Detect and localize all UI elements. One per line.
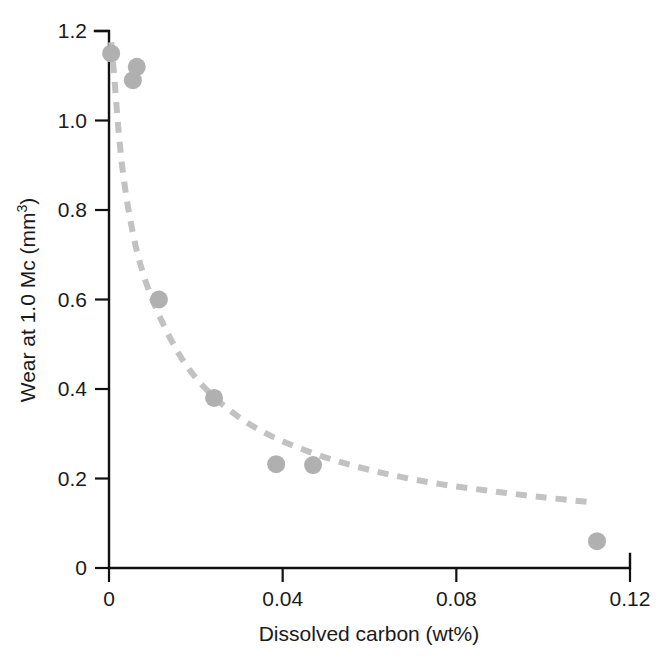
x-axis-ticks	[109, 568, 630, 582]
x-tick-label: 0.08	[436, 587, 477, 610]
data-point	[267, 455, 285, 473]
trend-curve	[111, 42, 595, 502]
y-axis-title-superscript: 3	[14, 204, 30, 212]
data-points	[102, 44, 606, 550]
x-tick-label: 0	[103, 587, 115, 610]
y-axis-tick-labels: 00.20.40.60.81.01.2	[58, 19, 88, 579]
data-point	[102, 44, 120, 62]
x-axis-tick-labels: 00.040.080.12	[103, 587, 650, 610]
data-point	[304, 456, 322, 474]
y-tick-label: 0.6	[58, 288, 87, 311]
y-tick-label: 1.0	[58, 109, 87, 132]
y-tick-label: 0.8	[58, 198, 87, 221]
fit-curve-group	[111, 42, 595, 502]
data-point	[150, 291, 168, 309]
y-tick-label: 1.2	[58, 19, 87, 42]
chart-figure: 00.20.40.60.81.01.2 00.040.080.12 Dissol…	[0, 0, 666, 659]
scatter-plot: 00.20.40.60.81.01.2 00.040.080.12 Dissol…	[0, 0, 666, 659]
y-axis-ticks	[95, 31, 109, 568]
data-point	[205, 389, 223, 407]
y-axis-title-tail: )	[16, 198, 39, 205]
data-point	[128, 58, 146, 76]
axes	[95, 31, 630, 582]
axis-lines	[95, 31, 630, 568]
y-tick-label: 0	[75, 556, 87, 579]
data-point	[588, 532, 606, 550]
y-axis-title-group: Wear at 1.0 Mc (mm3)	[14, 198, 39, 403]
x-tick-label: 0.12	[610, 587, 651, 610]
y-axis-title-main: Wear at 1.0 Mc (mm	[16, 212, 39, 402]
y-tick-label: 0.4	[58, 377, 88, 400]
x-tick-label: 0.04	[262, 587, 303, 610]
x-axis-title: Dissolved carbon (wt%)	[259, 622, 480, 645]
y-tick-label: 0.2	[58, 467, 87, 490]
y-axis-title: Wear at 1.0 Mc (mm3)	[14, 198, 39, 403]
